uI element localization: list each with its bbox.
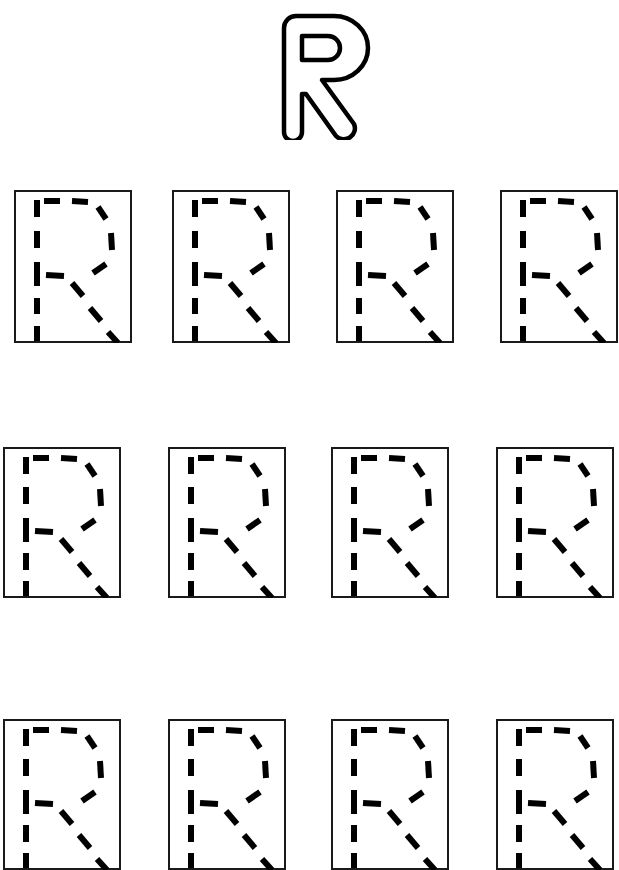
dashed-letter-R [3, 719, 121, 870]
dashed-letter-R [496, 719, 614, 870]
trace-box[interactable] [168, 447, 286, 598]
trace-box[interactable] [496, 447, 614, 598]
trace-box[interactable] [500, 190, 618, 343]
dashed-letter-R [331, 719, 449, 870]
trace-box[interactable] [172, 190, 290, 343]
dashed-letter-R [496, 447, 614, 598]
trace-box[interactable] [331, 447, 449, 598]
trace-box[interactable] [331, 719, 449, 870]
trace-box[interactable] [3, 447, 121, 598]
trace-box[interactable] [496, 719, 614, 870]
trace-box[interactable] [336, 190, 454, 343]
dashed-letter-R [336, 190, 454, 343]
title-letter-outline [262, 6, 382, 140]
dashed-letter-R [172, 190, 290, 343]
dashed-letter-R [168, 719, 286, 870]
dashed-letter-R [331, 447, 449, 598]
trace-box[interactable] [14, 190, 132, 343]
dashed-letter-R [168, 447, 286, 598]
trace-box[interactable] [168, 719, 286, 870]
dashed-letter-R [500, 190, 618, 343]
dashed-letter-R [14, 190, 132, 343]
dashed-letter-R [3, 447, 121, 598]
trace-box[interactable] [3, 719, 121, 870]
